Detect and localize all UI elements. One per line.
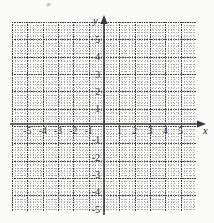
y-tick-label-2: 2: [89, 88, 100, 98]
y-tick-label-neg5: -5: [85, 206, 100, 216]
y-tick-label-1: 1: [89, 106, 100, 116]
scan-artifact: [45, 1, 52, 8]
y-tick-label-neg2: -2: [85, 154, 100, 164]
y-axis-label: y: [93, 16, 98, 27]
y-tick-label-5: 5: [89, 36, 100, 46]
x-axis-label: x: [203, 126, 208, 137]
y-tick-label-neg4: -4: [85, 189, 100, 199]
y-tick-label-neg3: -3: [85, 171, 100, 181]
y-tick-label-3: 3: [89, 71, 100, 81]
x-tick-label-neg2: -2: [69, 127, 77, 137]
x-tick-label-3: 3: [148, 127, 153, 137]
x-tick-label-5: 5: [178, 127, 183, 137]
x-tick-label-neg4: -4: [39, 127, 47, 137]
coordinate-plane-figure: y x -5 -4 -3 -2 -1 1 2 3 4 5 5 4 3 2 1 -…: [0, 0, 214, 223]
x-tick-label-4: 4: [163, 127, 168, 137]
x-tick-label-2: 2: [132, 127, 137, 137]
x-tick-label-1: 1: [117, 127, 122, 137]
major-gridlines-horizontal: [12, 22, 196, 212]
y-tick-label-neg1: -1: [85, 137, 100, 147]
x-tick-label-neg5: -5: [23, 127, 31, 137]
x-tick-label-neg3: -3: [54, 127, 62, 137]
plot-area: [12, 22, 196, 212]
y-tick-label-4: 4: [89, 54, 100, 64]
